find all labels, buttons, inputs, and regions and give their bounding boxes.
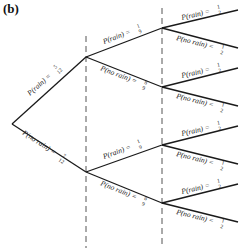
label-l3-8: P(no rain) = 1 2 xyxy=(174,206,225,230)
label-l3-2: P(no rain) = 1 2 xyxy=(174,32,225,56)
svg-text:P(no rain) =: P(no rain) = xyxy=(175,149,215,167)
svg-text:2: 2 xyxy=(220,49,224,56)
svg-text:2: 2 xyxy=(218,183,222,190)
label-l1-rain: P(rain) = 5 12 xyxy=(24,62,64,100)
svg-text:P(no rain) =: P(no rain) = xyxy=(98,178,138,201)
svg-text:P(no rain) =: P(no rain) = xyxy=(175,91,215,109)
label-l2-a: P(rain) = 1 9 xyxy=(100,22,143,48)
svg-text:9: 9 xyxy=(138,28,143,35)
svg-text:P(no rain) =: P(no rain) = xyxy=(20,128,58,157)
label-l3-4: P(no rain) = 1 2 xyxy=(174,90,225,114)
svg-text:2: 2 xyxy=(218,9,222,16)
svg-text:12: 12 xyxy=(58,157,66,165)
label-l3-1: P(rain) = 1 2 xyxy=(179,3,222,24)
svg-text:9: 9 xyxy=(141,200,146,207)
svg-text:P(rain) =: P(rain) = xyxy=(179,123,210,139)
svg-text:P(rain) =: P(rain) = xyxy=(179,181,210,197)
svg-text:2: 2 xyxy=(220,107,224,114)
svg-text:2: 2 xyxy=(220,223,224,230)
svg-text:2: 2 xyxy=(220,165,224,172)
label-l3-5: P(rain) = 1 2 xyxy=(179,119,222,140)
svg-text:P(rain) =: P(rain) = xyxy=(101,142,132,161)
label-l3-6: P(no rain) = 1 2 xyxy=(174,148,225,172)
svg-text:P(no rain) =: P(no rain) = xyxy=(98,63,138,86)
label-l3-7: P(rain) = 1 2 xyxy=(179,177,222,198)
svg-text:P(no rain) =: P(no rain) = xyxy=(175,33,215,51)
svg-text:2: 2 xyxy=(218,125,222,132)
label-l3-3: P(rain) = 1 2 xyxy=(179,61,222,82)
probability-tree: P(rain) = 5 12 P(no rain) = 7 12 P(rain)… xyxy=(0,0,247,248)
svg-text:9: 9 xyxy=(142,85,147,92)
branch-l1-rain xyxy=(12,57,86,124)
label-l2-d: P(no rain) = 8 9 xyxy=(98,177,149,207)
label-l2-b: P(no rain) = 8 9 xyxy=(98,62,149,91)
svg-text:P(rain) =: P(rain) = xyxy=(25,71,53,98)
svg-text:P(rain) =: P(rain) = xyxy=(101,27,132,46)
svg-text:9: 9 xyxy=(138,143,143,150)
svg-text:P(no rain) =: P(no rain) = xyxy=(175,207,215,225)
svg-text:P(rain) =: P(rain) = xyxy=(179,65,210,81)
label-l1-norain: P(no rain) = 7 12 xyxy=(19,127,69,165)
svg-text:2: 2 xyxy=(218,67,222,74)
